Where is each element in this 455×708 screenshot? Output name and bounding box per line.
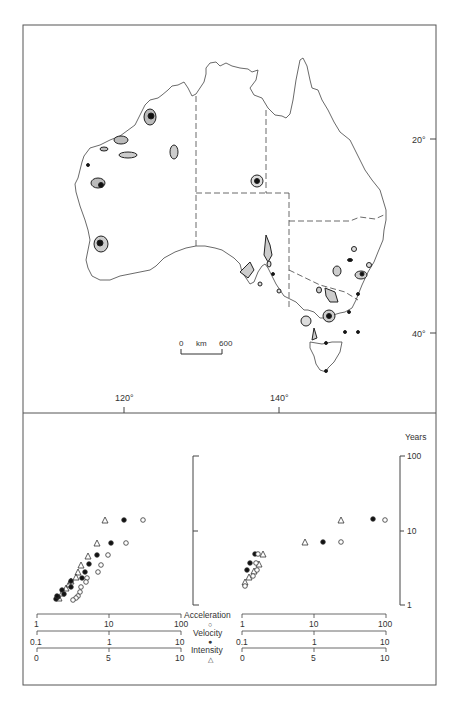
legend: Acceleration ○ Velocity ● Intensity △ [184, 610, 231, 663]
left-chart-y-bracket [193, 456, 199, 605]
left-x-labels: 1 10 100 0.1 1 10 0 5 10 [30, 619, 188, 663]
legend-intensity-marker: △ [208, 656, 214, 663]
svg-text:100: 100 [378, 619, 392, 629]
australia-map [75, 58, 386, 372]
right-x-labels: 1 10 100 0.1 1 10 0 5 10 [236, 619, 392, 663]
legend-intensity: Intensity [191, 645, 223, 655]
svg-text:10: 10 [175, 653, 185, 663]
right-chart-points [242, 517, 387, 589]
longitude-axis [124, 407, 279, 413]
figure-frame [23, 25, 436, 685]
legend-acceleration-marker: ○ [208, 621, 212, 628]
svg-text:600: 600 [219, 339, 233, 348]
svg-text:0.1: 0.1 [236, 637, 248, 647]
figure: 20° 40° 120° 140° 0 km 600 Years 100 10 … [0, 0, 455, 708]
svg-text:0.1: 0.1 [30, 637, 42, 647]
velocity-markers-right [245, 517, 376, 573]
seismic-zones [87, 109, 372, 373]
svg-text:1: 1 [240, 619, 245, 629]
latitude-axis [430, 139, 436, 333]
svg-text:1: 1 [34, 619, 39, 629]
years-tick-100: 100 [407, 451, 421, 461]
years-axis [400, 456, 405, 605]
svg-text:5: 5 [311, 653, 316, 663]
svg-text:1: 1 [107, 637, 112, 647]
svg-text:10: 10 [309, 619, 319, 629]
legend-velocity-marker: ● [208, 638, 212, 645]
scale-bar: 0 km 600 [179, 339, 233, 354]
svg-text:10: 10 [380, 637, 390, 647]
svg-text:1: 1 [312, 637, 317, 647]
svg-text:0: 0 [34, 653, 39, 663]
coastline [75, 58, 386, 318]
svg-text:5: 5 [106, 653, 111, 663]
years-tick-10: 10 [407, 526, 417, 536]
svg-text:10: 10 [380, 653, 390, 663]
legend-acceleration: Acceleration [184, 610, 231, 620]
long-label-120: 120° [115, 393, 134, 403]
lat-label-20: 20° [412, 135, 426, 145]
svg-text:10: 10 [175, 637, 185, 647]
svg-text:10: 10 [104, 619, 114, 629]
long-label-140: 140° [270, 393, 289, 403]
acceleration-markers-left [71, 518, 146, 603]
velocity-markers-left [54, 518, 127, 602]
svg-text:0: 0 [179, 339, 184, 348]
svg-text:0: 0 [240, 653, 245, 663]
lat-label-40: 40° [412, 329, 426, 339]
legend-velocity: Velocity [193, 628, 223, 638]
years-label: Years [405, 432, 426, 442]
years-tick-1: 1 [407, 600, 412, 610]
svg-text:100: 100 [174, 619, 188, 629]
svg-text:km: km [196, 339, 207, 348]
intensity-markers-right [242, 517, 344, 585]
tasmania [310, 342, 342, 372]
left-chart-points [54, 517, 146, 602]
